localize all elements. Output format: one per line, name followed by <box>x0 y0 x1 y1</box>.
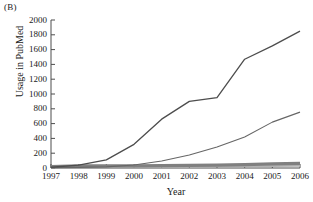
series-line-series-2 <box>51 112 300 168</box>
figure-panel-b: (B) Usage in PubMed Year 020040060080010… <box>0 0 313 202</box>
axis-spines <box>51 20 300 168</box>
data-series-group <box>51 31 300 168</box>
series-line-series-1 <box>51 31 300 167</box>
axis-spine <box>51 20 300 168</box>
y-axis-ticks <box>51 20 55 168</box>
line-chart-plot <box>0 0 313 202</box>
